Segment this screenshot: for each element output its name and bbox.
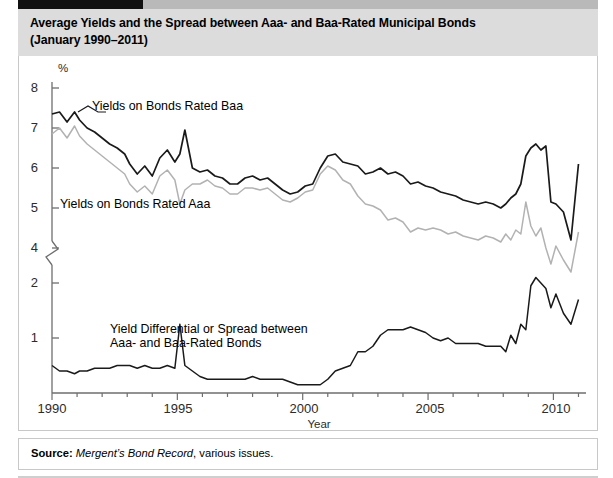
top-accent-tab <box>18 0 143 9</box>
y-axis-upper-ticks: 8 7 6 5 4 <box>31 80 59 255</box>
x-axis-title: Year <box>307 418 330 430</box>
y-tick-label-7: 7 <box>31 120 38 135</box>
y-axis-break-mark <box>46 241 58 265</box>
figure-title-line-1: Average Yields and the Spread between Aa… <box>30 16 476 30</box>
figure-title-line-2: (January 1990–2011) <box>30 33 148 47</box>
chart-plot: % 8 7 6 5 4 2 1 1990 1995 2000 <box>18 56 598 431</box>
figure-title: Average Yields and the Spread between Aa… <box>30 15 586 49</box>
figure-container: Average Yields and the Spread between Aa… <box>0 0 613 478</box>
y-tick-label-8: 8 <box>31 80 38 95</box>
y-tick-label-5: 5 <box>31 200 38 215</box>
y-axis-unit-label: % <box>58 62 68 74</box>
x-tick-label-1990: 1990 <box>38 401 67 416</box>
figure-title-band: Average Yields and the Spread between Aa… <box>18 9 598 56</box>
top-accent-strip <box>143 0 598 9</box>
annotation-spread-label-line1: Yield Differential or Spread between <box>110 322 308 336</box>
y-tick-label-6: 6 <box>31 160 38 175</box>
y-tick-label-2: 2 <box>31 275 38 290</box>
x-tick-label-2010: 2010 <box>542 401 571 416</box>
annotation-spread-label-line2: Aaa- and Baa-Rated Bonds <box>110 336 262 350</box>
y-axis-lower-ticks: 2 1 <box>31 275 59 345</box>
x-axis-tick-labels: 1990 1995 2000 2005 2010 <box>38 401 571 416</box>
y-tick-label-1: 1 <box>31 330 38 345</box>
source-lead: Source: <box>31 447 73 459</box>
x-tick-label-1995: 1995 <box>164 401 193 416</box>
x-axis-ticks <box>52 393 578 400</box>
x-tick-label-2005: 2005 <box>416 401 445 416</box>
source-publication: Mergent’s Bond Record <box>76 447 193 459</box>
source-note: Source: Mergent’s Bond Record, various i… <box>31 447 273 459</box>
annotation-aaa-label: Yields on Bonds Rated Aaa <box>60 197 211 211</box>
x-tick-label-2000: 2000 <box>290 401 319 416</box>
series-line-baa <box>52 112 578 240</box>
source-band: Source: Mergent’s Bond Record, various i… <box>18 438 598 470</box>
y-tick-label-4: 4 <box>31 240 38 255</box>
annotation-baa-label: Yields on Bonds Rated Baa <box>92 99 243 113</box>
source-tail: , various issues. <box>193 447 273 459</box>
